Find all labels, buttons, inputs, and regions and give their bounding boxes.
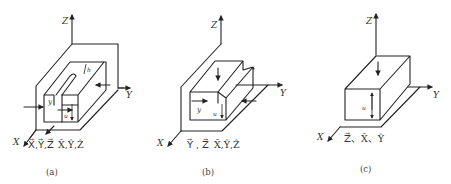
constrained-translations-b: Y⃗ , Z⃗ (186, 138, 209, 150)
panel-c: Z Y X u Z⃗、X̂、Ŷ (c) (316, 14, 440, 174)
dim-label-u: u (362, 104, 366, 111)
constraint-diagram: Z Y X y u h X⃗,Y⃗,Z⃗ X̂,Ŷ,Ẑ (a) Z (0, 0, 451, 184)
dim-label-u: u (213, 110, 217, 117)
y-axis-label: Y (126, 90, 133, 100)
z-axis-label: Z (61, 16, 69, 26)
z-axis-label: Z (365, 16, 373, 26)
x-axis-arrow (168, 131, 181, 146)
y-axis-label: Y (280, 88, 287, 98)
y-axis-label: Y (433, 90, 440, 100)
x-axis-label: X (156, 138, 164, 148)
panel-a: Z Y X y u h X⃗,Y⃗,Z⃗ X̂,Ŷ,Ẑ (a) (12, 15, 133, 177)
back-wall (36, 44, 124, 130)
dim-label-y: y (196, 106, 202, 114)
base-plane (30, 90, 118, 138)
x-axis-label: X (316, 132, 324, 142)
caption-c: (c) (360, 164, 371, 174)
constrained-dof-c: Z⃗、X̂、Ŷ (344, 132, 385, 144)
dim-label-y: y (47, 98, 53, 106)
dim-label-u: u (64, 112, 68, 119)
z-axis-label: Z (210, 20, 218, 30)
constrained-translations-a: X⃗,Y⃗,Z⃗ (28, 138, 54, 150)
dim-arrow-h (84, 64, 86, 74)
x-axis-arrow (328, 127, 340, 141)
dim-label-h: h (87, 66, 91, 73)
caption-a: (a) (46, 167, 58, 177)
caption-b: (b) (202, 167, 214, 177)
panel-b: Z Y X y u Y⃗ , Z⃗ X̂,Ŷ,Ẑ (b) (156, 16, 287, 177)
back-wall (181, 44, 221, 131)
constrained-rotations-a: X̂,Ŷ,Ẑ (58, 139, 84, 150)
constrained-rotations-b: X̂,Ŷ,Ẑ (214, 139, 240, 150)
x-axis-label: X (12, 137, 20, 147)
slot-pin (56, 74, 76, 95)
